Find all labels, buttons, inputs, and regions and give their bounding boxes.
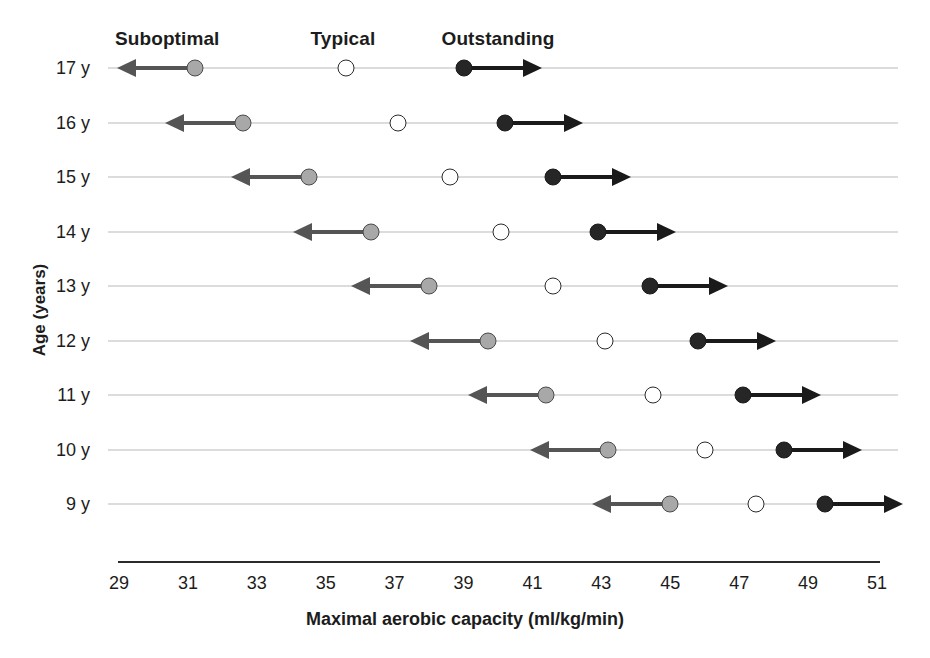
legend-label-outstanding: Outstanding [442,28,555,50]
legend-label-suboptimal: Suboptimal [115,28,219,50]
legend-label-typical: Typical [311,28,376,50]
row-guide-line [108,286,898,287]
outstanding-marker [589,223,606,240]
outstanding-arrow-shaft [464,66,525,70]
x-tick-label: 41 [522,573,542,594]
y-tick-label: 13 y [28,276,90,297]
outstanding-marker [496,114,513,131]
outstanding-arrow-shaft [825,502,886,506]
outstanding-arrow-head [657,223,676,241]
outstanding-arrow-shaft [743,393,804,397]
suboptimal-arrow-head [351,277,370,295]
outstanding-marker [455,60,472,77]
typical-marker [545,278,562,295]
typical-marker [596,332,613,349]
outstanding-arrow-head [709,277,728,295]
suboptimal-arrow-head [468,386,487,404]
suboptimal-arrow-head [231,168,250,186]
outstanding-arrow-head [884,495,903,513]
outstanding-arrow-head [802,386,821,404]
chart-canvas: SuboptimalTypicalOutstanding Age (years)… [0,0,930,658]
outstanding-marker [817,496,834,513]
typical-marker [748,496,765,513]
x-tick-label: 37 [385,573,405,594]
row-guide-line [108,177,898,178]
outstanding-arrow-shaft [598,230,659,234]
outstanding-arrow-shaft [553,175,614,179]
suboptimal-arrow-head [592,495,611,513]
outstanding-arrow-head [612,168,631,186]
outstanding-marker [545,169,562,186]
outstanding-arrow-head [843,441,862,459]
y-tick-label: 16 y [28,112,90,133]
x-tick-label: 31 [178,573,198,594]
suboptimal-marker [362,223,379,240]
x-tick-label: 33 [247,573,267,594]
typical-marker [645,387,662,404]
suboptimal-arrow-head [530,441,549,459]
outstanding-arrow-shaft [698,339,759,343]
suboptimal-arrow-head [410,332,429,350]
outstanding-marker [689,332,706,349]
suboptimal-arrow-head [117,59,136,77]
outstanding-arrow-shaft [650,284,711,288]
y-tick-label: 12 y [28,330,90,351]
outstanding-arrow-head [757,332,776,350]
suboptimal-marker [662,496,679,513]
x-tick-label: 49 [798,573,818,594]
x-tick-label: 35 [316,573,336,594]
y-tick-label: 10 y [28,439,90,460]
x-tick-label: 29 [109,573,129,594]
x-tick-label: 39 [454,573,474,594]
x-tick-label: 45 [660,573,680,594]
typical-marker [390,114,407,131]
suboptimal-marker [600,441,617,458]
typical-marker [338,60,355,77]
outstanding-marker [775,441,792,458]
typical-marker [441,169,458,186]
outstanding-arrow-head [523,59,542,77]
suboptimal-marker [300,169,317,186]
x-tick-label: 43 [591,573,611,594]
suboptimal-marker [421,278,438,295]
y-tick-label: 15 y [28,167,90,188]
outstanding-marker [734,387,751,404]
x-tick-label: 47 [729,573,749,594]
typical-marker [493,223,510,240]
outstanding-arrow-shaft [505,121,566,125]
row-guide-line [108,340,898,341]
outstanding-arrow-head [564,114,583,132]
outstanding-marker [641,278,658,295]
y-tick-label: 11 y [28,385,90,406]
suboptimal-arrow-head [165,114,184,132]
y-tick-label: 17 y [28,58,90,79]
suboptimal-marker [479,332,496,349]
suboptimal-marker [538,387,555,404]
y-tick-label: 9 y [28,494,90,515]
outstanding-arrow-shaft [784,448,845,452]
suboptimal-marker [186,60,203,77]
suboptimal-arrow-head [293,223,312,241]
row-guide-line [108,504,898,505]
x-tick-label: 51 [867,573,887,594]
typical-marker [696,441,713,458]
y-tick-label: 14 y [28,221,90,242]
x-axis-title: Maximal aerobic capacity (ml/kg/min) [0,609,930,630]
x-axis-line [118,561,880,563]
suboptimal-marker [235,114,252,131]
